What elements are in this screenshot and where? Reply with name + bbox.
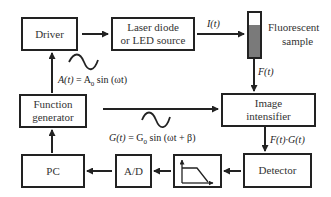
driver-box: Driver bbox=[21, 17, 78, 51]
edge-label-f-t: F(t) bbox=[258, 66, 274, 77]
function-generator-box: Function generator bbox=[19, 94, 87, 128]
function-generator-label: Function generator bbox=[32, 98, 74, 124]
image-intensifier-box: Image intensifier bbox=[221, 93, 316, 127]
sample-label: Fluorescent sample bbox=[268, 20, 319, 48]
cuvette-icon bbox=[248, 12, 261, 58]
laser-source-box: Laser diode or LED source bbox=[111, 17, 195, 51]
edge-label-fg-t: F(t)·G(t) bbox=[270, 134, 305, 145]
ad-label: A/D bbox=[124, 165, 143, 178]
edge-label-i-t: I(t) bbox=[207, 18, 220, 29]
detector-box: Detector bbox=[243, 153, 312, 188]
ad-converter-box: A/D bbox=[115, 154, 152, 188]
driver-label: Driver bbox=[35, 28, 64, 41]
edge-label-g-t-equation: G(t) = G0 sin (ωt + β) bbox=[109, 132, 195, 146]
pc-box: PC bbox=[21, 154, 85, 188]
low-pass-filter-icon bbox=[175, 156, 220, 186]
detector-label: Detector bbox=[259, 164, 297, 177]
filter-box bbox=[173, 154, 222, 188]
image-intensifier-label: Image intensifier bbox=[246, 97, 291, 123]
pc-label: PC bbox=[46, 165, 59, 178]
edge-label-a-t-equation: A(t) = A0 sin (ωt) bbox=[58, 74, 127, 88]
sine-wave-icon bbox=[142, 113, 170, 128]
laser-source-label: Laser diode or LED source bbox=[121, 21, 186, 47]
sine-wave-icon bbox=[69, 55, 98, 70]
